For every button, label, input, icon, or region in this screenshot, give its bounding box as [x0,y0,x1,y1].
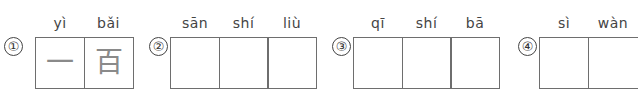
item-number-1: ① [4,37,23,56]
pinyin-label: liù [268,15,316,31]
hanzi-answer [589,38,638,88]
item-number-2: ② [149,37,168,56]
item-number-3: ③ [332,37,351,56]
hanzi-answer: 百 [85,38,133,88]
pinyin-label: shí [403,15,451,31]
writing-cell[interactable]: shí [219,37,269,89]
pinyin-label: wàn [589,15,638,31]
pinyin-label: yì [36,15,84,31]
writing-grid-1: yì 一 bǎi 百 [35,37,134,89]
hanzi-answer [220,38,268,88]
hanzi-answer [540,38,588,88]
hanzi-answer [268,38,316,88]
writing-cell[interactable]: qī [353,37,403,89]
writing-cell[interactable]: yì 一 [35,37,85,89]
hanzi-answer: 一 [36,38,84,88]
pinyin-label: shí [220,15,268,31]
writing-cell[interactable]: wàn [588,37,638,89]
pinyin-label: sì [540,15,588,31]
item-number-4: ④ [518,37,537,56]
writing-cell[interactable]: sì [539,37,589,89]
writing-grid-2: sān shí liù [170,37,317,89]
writing-cell[interactable]: shí [402,37,452,89]
hanzi-answer [354,38,402,88]
hanzi-answer [451,38,499,88]
writing-cell[interactable]: bǎi 百 [84,37,134,89]
pinyin-label: bǎi [85,15,133,31]
hanzi-answer [403,38,451,88]
writing-grid-3: qī shí bā [353,37,500,89]
pinyin-label: bā [451,15,499,31]
writing-cell[interactable]: bā [450,37,500,89]
pinyin-label: qī [354,15,402,31]
hanzi-answer [171,38,219,88]
writing-grid-4: sì wàn [539,37,638,89]
pinyin-label: sān [171,15,219,31]
writing-cell[interactable]: sān [170,37,220,89]
writing-cell[interactable]: liù [267,37,317,89]
